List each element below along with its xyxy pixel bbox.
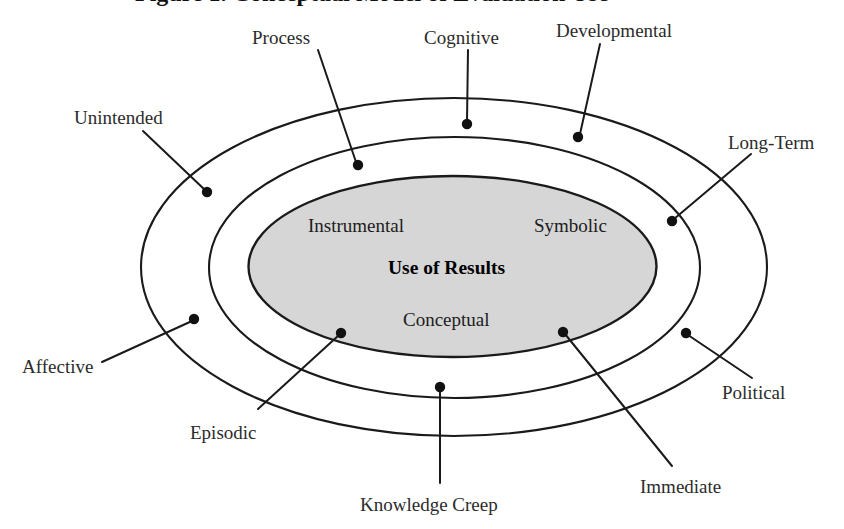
leader-line-process: [318, 50, 356, 162]
callout-label-developmental: Developmental: [556, 21, 672, 40]
callout-label-knowledge-creep: Knowledge Creep: [360, 495, 498, 514]
leader-dot-developmental: [573, 132, 583, 142]
leader-line-political: [688, 335, 752, 378]
callout-label-process: Process: [252, 28, 310, 47]
callout-label-long-term: Long-Term: [728, 133, 814, 152]
leader-dot-immediate: [558, 327, 568, 337]
callout-label-episodic: Episodic: [190, 423, 257, 442]
core-label-use-of-results: Use of Results: [388, 258, 505, 278]
leader-line-unintended: [143, 131, 205, 190]
leader-line-episodic: [258, 335, 339, 409]
leader-dot-process: [353, 160, 363, 170]
callout-label-political: Political: [722, 383, 785, 402]
core-label-instrumental: Instrumental: [308, 216, 404, 235]
core-label-conceptual: Conceptual: [403, 310, 490, 329]
callout-label-unintended: Unintended: [74, 108, 163, 127]
leader-line-immediate: [565, 334, 672, 466]
leader-dot-political: [681, 328, 691, 338]
leader-dot-knowledge-creep: [435, 382, 445, 392]
leader-line-cognitive: [467, 50, 468, 121]
leader-dot-episodic: [336, 328, 346, 338]
leader-dot-affective: [189, 314, 199, 324]
leader-dot-unintended: [202, 187, 212, 197]
evaluation-use-diagram: Figure 1. Conceptual Model of Evaluation…: [0, 0, 844, 529]
core-label-symbolic: Symbolic: [534, 216, 607, 235]
callout-label-cognitive: Cognitive: [424, 28, 499, 47]
leader-line-developmental: [580, 44, 600, 134]
leader-line-long-term: [674, 154, 751, 219]
leader-dot-cognitive: [462, 119, 472, 129]
callout-label-immediate: Immediate: [640, 477, 721, 496]
leader-line-affective: [102, 321, 192, 362]
callout-label-affective: Affective: [22, 357, 93, 376]
leader-dot-long-term: [667, 216, 677, 226]
